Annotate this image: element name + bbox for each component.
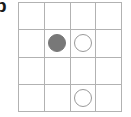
grid-cell-r4-c1[interactable] <box>19 85 45 112</box>
grid-board[interactable] <box>18 2 122 112</box>
grid-cell-r1-c2[interactable] <box>45 3 71 30</box>
grid-cell-r1-c3[interactable] <box>71 3 97 30</box>
open-circle-marker <box>74 34 92 52</box>
grid-cell-r4-c3[interactable] <box>71 85 97 112</box>
grid-cell-r1-c4[interactable] <box>96 3 122 30</box>
open-circle-marker <box>74 89 92 107</box>
grid-cell-r2-c2[interactable] <box>45 30 71 57</box>
grid-cell-r4-c2[interactable] <box>45 85 71 112</box>
grid-cell-r2-c3[interactable] <box>71 30 97 57</box>
figure-panel-label: b <box>0 0 11 16</box>
grid-cell-r3-c3[interactable] <box>71 58 97 85</box>
grid-cell-r3-c1[interactable] <box>19 58 45 85</box>
grid-cell-r2-c1[interactable] <box>19 30 45 57</box>
grid-cell-r4-c4[interactable] <box>96 85 122 112</box>
grid-cell-r2-c4[interactable] <box>96 30 122 57</box>
filled-circle-marker <box>48 34 66 52</box>
grid-cell-r3-c4[interactable] <box>96 58 122 85</box>
grid-cell-r3-c2[interactable] <box>45 58 71 85</box>
grid-cell-r1-c1[interactable] <box>19 3 45 30</box>
